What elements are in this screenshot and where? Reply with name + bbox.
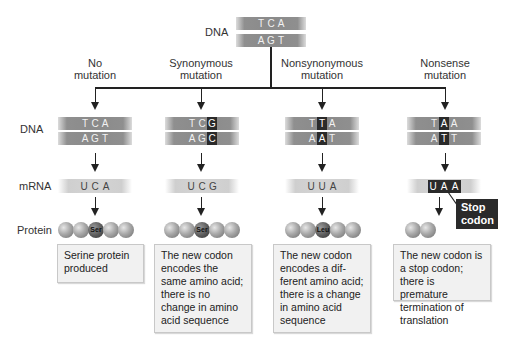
title-line: Nonsynonymous bbox=[272, 57, 372, 69]
base: A bbox=[276, 17, 286, 30]
base: G bbox=[208, 180, 219, 193]
top-dna-strand-bottom: A G T bbox=[236, 34, 306, 47]
amino-acid-sphere bbox=[209, 222, 225, 238]
amino-acid-leucine: Leu bbox=[315, 222, 331, 238]
row-label-mrna: mRNA bbox=[19, 180, 51, 192]
description-box: Serine protein produced bbox=[57, 244, 144, 283]
column-title-synonymous: Synonymous mutation bbox=[156, 57, 246, 81]
base: C bbox=[197, 117, 207, 130]
base: U bbox=[306, 180, 317, 193]
description-box: The new codon encodes a dif-ferent amino… bbox=[273, 244, 371, 333]
base: U bbox=[428, 180, 439, 193]
amino-acid-sphere bbox=[420, 222, 436, 238]
title-line: mutation bbox=[272, 69, 372, 81]
amino-acid-sphere bbox=[179, 222, 195, 238]
base: G bbox=[197, 132, 207, 145]
arrow-down-icon bbox=[197, 164, 205, 172]
stop-codon-callout: Stop codon bbox=[456, 199, 498, 229]
amino-acid-serine: Ser bbox=[194, 222, 210, 238]
top-dna-strand-top: T C A bbox=[236, 17, 306, 30]
base: T bbox=[307, 117, 317, 130]
amino-acid-serine: Ser bbox=[88, 222, 104, 238]
arrow-down-icon bbox=[318, 102, 326, 110]
base: T bbox=[80, 117, 90, 130]
top-dna-label: DNA bbox=[205, 26, 228, 38]
base: T bbox=[100, 132, 110, 145]
arrow-stem bbox=[95, 87, 97, 103]
amino-acid-sphere bbox=[345, 222, 361, 238]
base: C bbox=[90, 180, 101, 193]
dna-strand-top: T T A bbox=[285, 117, 359, 130]
base: C bbox=[197, 180, 208, 193]
title-line: Synonymous bbox=[156, 57, 246, 69]
base: G bbox=[266, 34, 276, 47]
mrna-strand: U C A bbox=[58, 179, 132, 193]
description-box: The new codon is a stop codon; there is … bbox=[393, 244, 491, 301]
base: A bbox=[327, 117, 337, 130]
mrna-strand: U U A bbox=[285, 179, 359, 193]
amino-acid-sphere bbox=[118, 222, 134, 238]
arrow-down-icon bbox=[435, 208, 443, 216]
base: A bbox=[328, 180, 339, 193]
base: A bbox=[101, 180, 112, 193]
mrna-strand-stop: U A A bbox=[407, 179, 481, 193]
amino-acid-sphere bbox=[330, 222, 346, 238]
mutated-base: T bbox=[439, 132, 449, 145]
base: A bbox=[450, 180, 461, 193]
column-title-nonsense: Nonsense mutation bbox=[405, 57, 485, 81]
row-label-protein: Protein bbox=[17, 224, 52, 236]
base: T bbox=[187, 117, 197, 130]
dna-strand-bottom: A G C bbox=[165, 132, 239, 145]
title-line: No bbox=[55, 57, 135, 69]
dna-strand-top: T C G bbox=[165, 117, 239, 130]
row-label-dna: DNA bbox=[20, 123, 43, 135]
base: C bbox=[90, 117, 100, 130]
arrow-down-icon bbox=[318, 164, 326, 172]
mutated-base: A bbox=[439, 117, 449, 130]
base: U bbox=[79, 180, 90, 193]
arrow-stem bbox=[201, 87, 203, 103]
amino-acid-sphere bbox=[73, 222, 89, 238]
arrow-down-icon bbox=[91, 208, 99, 216]
base: T bbox=[256, 17, 266, 30]
arrow-down-icon bbox=[441, 164, 449, 172]
base: G bbox=[90, 132, 100, 145]
arrow-down-icon bbox=[91, 102, 99, 110]
base: A bbox=[307, 132, 317, 145]
arrow-down-icon bbox=[318, 208, 326, 216]
base: C bbox=[266, 17, 276, 30]
amino-acid-sphere bbox=[224, 222, 240, 238]
column-title-no-mutation: No mutation bbox=[55, 57, 135, 81]
base: A bbox=[80, 132, 90, 145]
amino-acid-sphere bbox=[300, 222, 316, 238]
base: T bbox=[327, 132, 337, 145]
title-line: mutation bbox=[405, 69, 485, 81]
base: A bbox=[256, 34, 266, 47]
amino-acid-sphere bbox=[103, 222, 119, 238]
base: U bbox=[317, 180, 328, 193]
base: T bbox=[429, 117, 439, 130]
amino-acid-sphere bbox=[164, 222, 180, 238]
base: A bbox=[449, 117, 459, 130]
arrow-down-icon bbox=[197, 208, 205, 216]
mrna-strand: U C G bbox=[165, 179, 239, 193]
arrow-stem bbox=[322, 87, 324, 103]
arrow-down-icon bbox=[91, 164, 99, 172]
base: U bbox=[186, 180, 197, 193]
base: A bbox=[187, 132, 197, 145]
dna-strand-bottom: A A T bbox=[285, 132, 359, 145]
column-title-nonsynonymous: Nonsynonymous mutation bbox=[272, 57, 372, 81]
arrow-stem bbox=[445, 87, 447, 103]
description-box: The new codon encodes the same amino aci… bbox=[154, 244, 252, 333]
amino-acid-sphere bbox=[285, 222, 301, 238]
mutated-base: G bbox=[207, 117, 217, 130]
mutated-base: T bbox=[317, 117, 327, 130]
title-line: mutation bbox=[156, 69, 246, 81]
title-line: Nonsense bbox=[405, 57, 485, 69]
mutated-base: C bbox=[207, 132, 217, 145]
arrow-down-icon bbox=[197, 102, 205, 110]
base: T bbox=[449, 132, 459, 145]
dna-strand-top: T C A bbox=[58, 117, 132, 130]
base: A bbox=[429, 132, 439, 145]
base: A bbox=[439, 180, 450, 193]
